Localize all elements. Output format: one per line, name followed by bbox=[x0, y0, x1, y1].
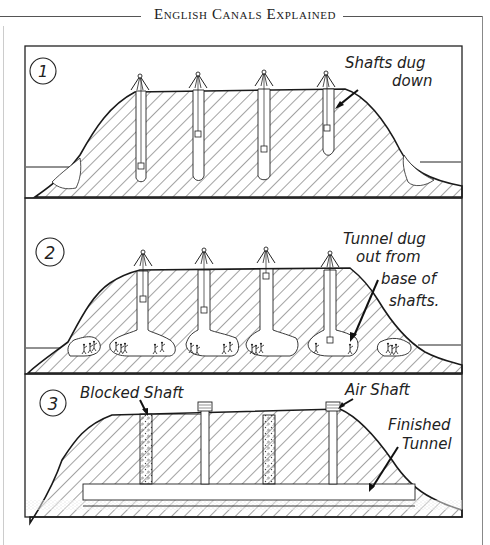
label-shafts: shafts. bbox=[389, 292, 439, 310]
blocked-shaft bbox=[263, 415, 275, 484]
hill-section bbox=[35, 89, 462, 197]
label-down: down bbox=[392, 72, 432, 90]
blocked-shaft bbox=[140, 414, 152, 484]
label-finished: Finished bbox=[388, 416, 451, 434]
label-out-from: out from bbox=[356, 248, 421, 266]
step-number-2: 2 bbox=[45, 243, 56, 263]
label-blocked-shaft: Blocked Shaft bbox=[80, 384, 185, 402]
panel-3: 3 Blocked Shaft Air Shaft Finished Tunne… bbox=[25, 374, 462, 523]
winch-tripod-icon bbox=[317, 71, 335, 87]
step-number-3: 3 bbox=[48, 394, 59, 414]
finished-tunnel bbox=[83, 484, 415, 500]
label-base-of: base of bbox=[381, 270, 439, 288]
step-number-1: 1 bbox=[38, 62, 48, 81]
panel-1: 1 Shafts dug down bbox=[25, 46, 462, 198]
label-tunnel-dug: Tunnel dug bbox=[343, 230, 426, 248]
winch-tripod-icon bbox=[131, 74, 149, 90]
label-tunnel: Tunnel bbox=[402, 435, 452, 453]
tunnel-construction-diagram: 1 Shafts dug down bbox=[0, 0, 490, 545]
label-shafts-dug: Shafts dug bbox=[345, 54, 426, 72]
panel-2: 2 Tunnel dug out from base of shafts. bbox=[25, 198, 462, 374]
label-air-shaft: Air Shaft bbox=[344, 381, 411, 399]
